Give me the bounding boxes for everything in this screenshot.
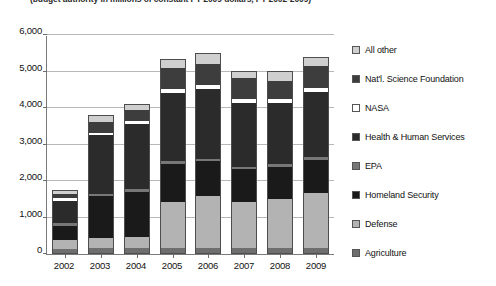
- legend-item[interactable]: All other: [352, 44, 397, 56]
- chart-figure: (budget authority in millions of constan…: [0, 0, 496, 286]
- bar-segment: [304, 248, 328, 253]
- bar-segment: [268, 199, 292, 248]
- bar-segment: [268, 103, 292, 164]
- legend-label: All other: [365, 45, 397, 55]
- bar-segment: [268, 248, 292, 253]
- stacked-bar[interactable]: [52, 190, 78, 254]
- bar-segment: [161, 248, 185, 253]
- bar-slot: [155, 36, 191, 254]
- x-tick-mark: [101, 254, 102, 258]
- legend-label: Nat'l. Science Foundation: [365, 74, 464, 84]
- y-tick-label: 0: [37, 244, 42, 255]
- bar-segment: [304, 58, 328, 66]
- gridline: [47, 34, 334, 35]
- bar-slot: [83, 36, 119, 254]
- x-axis-label: 2005: [154, 260, 190, 276]
- bar-segment: [161, 68, 185, 89]
- legend-swatch-icon: [352, 220, 360, 228]
- bar-segment: [196, 161, 220, 196]
- x-axis-label: 2007: [226, 260, 262, 276]
- x-tick-mark: [280, 254, 281, 258]
- legend-label: Health & Human Services: [365, 132, 465, 142]
- legend-item[interactable]: Agriculture: [352, 247, 406, 259]
- x-tick-mark: [137, 254, 138, 258]
- bar-segment: [196, 196, 220, 247]
- bar-segment: [232, 103, 256, 167]
- stacked-bar[interactable]: [303, 57, 329, 254]
- bar-segment: [53, 240, 77, 248]
- stacked-bar[interactable]: [267, 71, 293, 254]
- bar-segment: [268, 167, 292, 199]
- y-tick-label: 5,000: [19, 61, 42, 72]
- bar-segment: [232, 202, 256, 248]
- bar-segment: [196, 54, 220, 63]
- bar-slot: [47, 36, 83, 254]
- bar-segment: [161, 202, 185, 248]
- stacked-bar[interactable]: [88, 115, 114, 254]
- x-tick-mark: [244, 254, 245, 258]
- x-tick-mark: [173, 254, 174, 258]
- bar-slot: [298, 36, 334, 254]
- x-axis-label: 2004: [118, 260, 154, 276]
- x-tick-mark: [316, 254, 317, 258]
- x-tick-mark: [65, 254, 66, 258]
- legend-swatch-icon: [352, 249, 360, 257]
- bar-segment: [89, 196, 113, 238]
- bar-segment: [161, 164, 185, 202]
- bar-slot: [191, 36, 227, 254]
- bar-segment: [53, 249, 77, 253]
- bar-segment: [89, 238, 113, 247]
- legend-swatch-icon: [352, 133, 360, 141]
- bar-segment: [89, 135, 113, 193]
- bar-segment: [125, 192, 149, 237]
- bar-segment: [304, 66, 328, 88]
- y-tick-label: 2,000: [19, 171, 42, 182]
- legend-label: Homeland Security: [365, 190, 438, 200]
- legend-label: Defense: [365, 219, 397, 229]
- bar-slot: [119, 36, 155, 254]
- bar-segment: [125, 248, 149, 253]
- legend-label: EPA: [365, 161, 382, 171]
- bar-segment: [232, 248, 256, 253]
- y-tick-label: 3,000: [19, 134, 42, 145]
- stacked-bar[interactable]: [195, 53, 221, 254]
- x-axis-label: 2008: [262, 260, 298, 276]
- legend-item[interactable]: NASA: [352, 102, 389, 114]
- bar-slot: [262, 36, 298, 254]
- legend-item[interactable]: Defense: [352, 218, 397, 230]
- x-axis-label: 2009: [298, 260, 334, 276]
- x-tick-mark: [208, 254, 209, 258]
- legend-item[interactable]: Homeland Security: [352, 189, 438, 201]
- bar-segment: [304, 160, 328, 193]
- chart-title: (budget authority in millions of constan…: [30, 0, 450, 6]
- bar-segment: [89, 122, 113, 133]
- bar-segment: [125, 237, 149, 248]
- y-tick-mark: [43, 34, 47, 35]
- legend-swatch-icon: [352, 104, 360, 112]
- legend-swatch-icon: [352, 191, 360, 199]
- plot-area: 01,0002,0003,0004,0005,0006,000: [46, 36, 334, 255]
- bar-slot: [226, 36, 262, 254]
- bar-segment: [125, 124, 149, 189]
- legend-label: NASA: [365, 103, 389, 113]
- bar-segment: [232, 78, 256, 98]
- legend-swatch-icon: [352, 75, 360, 83]
- legend-item[interactable]: Nat'l. Science Foundation: [352, 73, 464, 85]
- chart-legend: All otherNat'l. Science FoundationNASAHe…: [352, 44, 496, 262]
- legend-swatch-icon: [352, 46, 360, 54]
- stacked-bar[interactable]: [124, 104, 150, 254]
- bar-group: [47, 36, 334, 254]
- stacked-bar[interactable]: [160, 59, 186, 254]
- bar-segment: [53, 201, 77, 224]
- bar-segment: [125, 110, 149, 121]
- stacked-bar[interactable]: [231, 71, 257, 254]
- bar-segment: [89, 248, 113, 253]
- bar-segment: [161, 93, 185, 161]
- legend-item[interactable]: Health & Human Services: [352, 131, 465, 143]
- y-tick-label: 1,000: [19, 207, 42, 218]
- bar-segment: [196, 64, 220, 85]
- y-tick-label: 6,000: [19, 25, 42, 36]
- legend-item[interactable]: EPA: [352, 160, 382, 172]
- legend-swatch-icon: [352, 162, 360, 170]
- x-axis-label: 2003: [82, 260, 118, 276]
